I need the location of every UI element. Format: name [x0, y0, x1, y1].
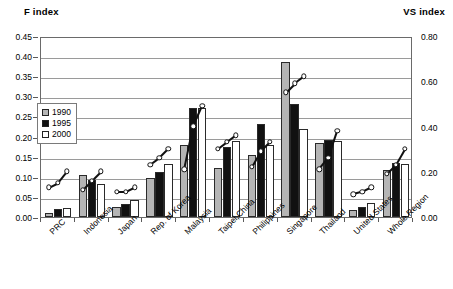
vs-index-marker-1990: [317, 167, 322, 172]
left-axis-tick-label: 0.30: [15, 92, 32, 102]
left-axis-tickmark: [33, 97, 38, 98]
vs-index-marker-1990: [181, 167, 186, 172]
legend-swatch-1995-icon: [42, 120, 49, 127]
plot-area: [40, 37, 412, 218]
right-axis-tick-label: 0.40: [421, 123, 438, 133]
left-axis: 0.000.050.100.150.200.250.300.350.400.45: [0, 37, 38, 218]
vs-index-marker-1995: [55, 180, 60, 185]
vs-index-marker-2000: [199, 103, 204, 108]
vs-index-marker-1995: [224, 139, 229, 144]
legend-item: 1995: [42, 118, 71, 129]
vs-index-marker-1995: [123, 189, 128, 194]
left-axis-tickmark: [33, 77, 38, 78]
left-axis-tickmark: [33, 37, 38, 38]
right-axis-tick-label: 0.80: [421, 32, 438, 42]
left-axis-tick-label: 0.15: [15, 153, 32, 163]
chart-container: F index VS index 0.000.050.100.150.200.2…: [0, 0, 453, 289]
vs-index-marker-1990: [46, 185, 51, 190]
vs-index-marker-2000: [64, 169, 69, 174]
left-axis-title: F index: [24, 6, 59, 17]
vs-index-marker-1990: [351, 191, 356, 196]
vs-index-marker-1995: [258, 148, 263, 153]
left-axis-tickmark: [33, 198, 38, 199]
vs-index-marker-1995: [89, 178, 94, 183]
vs-index-marker-2000: [98, 169, 103, 174]
left-axis-tickmark: [33, 178, 38, 179]
vs-index-marker-2000: [132, 185, 137, 190]
vs-index-marker-1990: [249, 164, 254, 169]
left-axis-tick-label: 0.05: [15, 193, 32, 203]
right-axis-tick-label: 0.60: [421, 77, 438, 87]
right-axis-title: VS index: [403, 6, 445, 17]
left-axis-tick-label: 0.35: [15, 72, 32, 82]
vs-index-marker-2000: [402, 146, 407, 151]
vs-index-marker-2000: [233, 133, 238, 138]
left-axis-tick-label: 0.25: [15, 112, 32, 122]
vs-index-marker-1995: [190, 124, 195, 129]
legend-item: 1990: [42, 107, 71, 118]
vs-index-marker-2000: [369, 185, 374, 190]
left-axis-tickmark: [33, 57, 38, 58]
legend-swatch-1990-icon: [42, 109, 49, 116]
vs-index-marker-2000: [335, 128, 340, 133]
left-axis-tickmark: [33, 218, 38, 219]
vs-index-marker-1990: [283, 90, 288, 95]
vs-index-marker-1995: [157, 155, 162, 160]
vs-index-marker-1995: [360, 189, 365, 194]
vs-index-marker-1990: [215, 146, 220, 151]
left-axis-tick-label: 0.40: [15, 52, 32, 62]
vs-index-line-segment: [328, 131, 339, 159]
vs-index-marker-1990: [384, 171, 389, 176]
vs-index-line-segment: [183, 126, 194, 169]
legend-item: 2000: [42, 129, 71, 140]
category-labels: PRCIndonesiaJapanRep. of KoreaMalaysiaTa…: [0, 222, 453, 289]
vs-index-markers-layer: [41, 38, 411, 217]
left-axis-tickmark: [33, 158, 38, 159]
vs-index-marker-1990: [114, 189, 119, 194]
vs-index-marker-1990: [80, 187, 85, 192]
vs-index-marker-1995: [292, 81, 297, 86]
vs-index-marker-1990: [148, 162, 153, 167]
legend-label: 1995: [52, 118, 71, 129]
right-axis: 0.000.200.400.600.80: [413, 37, 453, 218]
vs-index-marker-2000: [166, 146, 171, 151]
vs-index-marker-2000: [301, 74, 306, 79]
category-label-prc: PRC: [47, 217, 67, 237]
legend-swatch-2000-icon: [42, 131, 49, 138]
vs-index-marker-1995: [326, 155, 331, 160]
legend-label: 2000: [52, 129, 71, 140]
left-axis-tick-label: 0.10: [15, 173, 32, 183]
vs-index-marker-2000: [267, 139, 272, 144]
right-axis-tick-label: 0.20: [421, 168, 438, 178]
vs-index-marker-1995: [393, 162, 398, 167]
legend-label: 1990: [52, 107, 71, 118]
legend: 1990 1995 2000: [37, 103, 77, 144]
left-axis-tick-label: 0.45: [15, 32, 32, 42]
left-axis-tick-label: 0.20: [15, 133, 32, 143]
